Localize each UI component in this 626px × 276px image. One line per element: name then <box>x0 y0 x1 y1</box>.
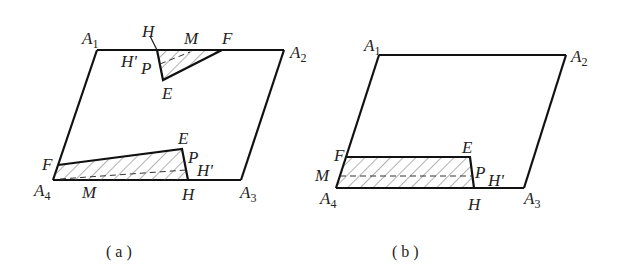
figure-b: A1 A2 A3 A4 F E M P H' H ( b ) <box>314 36 587 261</box>
parallelogram-a-right-edge <box>241 50 284 180</box>
label-a-top-E: E <box>161 84 173 103</box>
caption-b: ( b ) <box>392 243 419 261</box>
parallelogram-b-right-edge <box>524 55 566 188</box>
label-b-F: F <box>333 146 345 165</box>
label-a-bot-F: F <box>41 155 53 174</box>
label-a-top-M: M <box>183 29 199 48</box>
label-a-A4: A4 <box>33 181 50 203</box>
label-a-bot-E: E <box>177 129 189 148</box>
label-a-top-Hp: H' <box>120 52 137 71</box>
label-a-A2: A2 <box>289 43 306 65</box>
label-b-P: P <box>474 163 485 182</box>
label-b-M: M <box>314 166 330 185</box>
label-b-A2: A2 <box>570 47 587 69</box>
label-b-A4: A4 <box>319 189 336 211</box>
caption-a: ( a ) <box>106 243 132 261</box>
label-a-A1: A1 <box>81 29 98 51</box>
b-hatched-region <box>336 157 474 188</box>
label-a-bot-Hp: H' <box>196 161 213 180</box>
label-b-E: E <box>461 138 473 157</box>
label-a-bot-H: H <box>181 185 196 204</box>
label-a-top-F: F <box>221 29 233 48</box>
label-a-A3: A3 <box>239 183 256 205</box>
bottom-hatched-region <box>53 149 188 180</box>
diagram-canvas: A1 A2 A3 A4 H M F H' P E E F P H' M H ( … <box>0 0 626 276</box>
label-b-A1: A1 <box>363 36 380 58</box>
label-a-bot-M: M <box>81 183 97 202</box>
label-b-A3: A3 <box>523 189 540 211</box>
label-a-top-P: P <box>140 59 151 78</box>
label-b-Hp: H' <box>487 171 504 190</box>
figure-a: A1 A2 A3 A4 H M F H' P E E F P H' M H ( … <box>33 22 306 261</box>
label-a-top-H: H <box>141 22 156 41</box>
label-b-H: H <box>467 195 482 214</box>
